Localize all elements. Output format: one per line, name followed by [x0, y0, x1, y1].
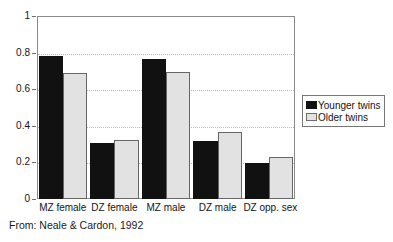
y-tick-mark [32, 126, 36, 127]
legend-label-older-twins: Older twins [318, 112, 368, 123]
source-caption: From: Neale & Cardon, 1992 [9, 219, 143, 232]
bar-younger-twins [90, 143, 114, 199]
bar-younger-twins [39, 56, 63, 199]
x-axis: MZ femaleDZ femaleMZ maleDZ maleDZ opp. … [37, 200, 295, 218]
y-tick-label: 1 [24, 11, 30, 21]
bar-older-twins [166, 72, 190, 199]
y-tick-mark [32, 53, 36, 54]
legend-label-younger-twins: Younger twins [318, 100, 380, 111]
x-tick-label: DZ female [89, 202, 141, 214]
y-tick-label: 0 [24, 194, 30, 204]
y-tick-mark [32, 162, 36, 163]
y-tick-label: 0.2 [16, 157, 30, 167]
y-tick-label: 0.8 [16, 48, 30, 58]
x-tick-label: DZ opp. sex [243, 202, 295, 214]
twin-correlation-bar-chart: 00.20.40.60.81 MZ femaleDZ femaleMZ male… [0, 0, 393, 242]
bar-group [245, 16, 294, 199]
bar-group [193, 16, 242, 199]
legend-item-older-twins: Older twins [306, 111, 380, 123]
bar-younger-twins [193, 141, 217, 199]
bar-older-twins [114, 140, 138, 199]
y-axis: 00.20.40.60.81 [0, 0, 37, 242]
x-tick-label: DZ male [192, 202, 244, 214]
bar-group [142, 16, 191, 199]
x-tick-label: MZ male [140, 202, 192, 214]
y-tick-mark [32, 199, 36, 200]
y-tick-label: 0.4 [16, 121, 30, 131]
bar-older-twins [269, 157, 293, 199]
y-tick-mark [32, 89, 36, 90]
bar-group [39, 16, 88, 199]
bar-younger-twins [245, 163, 269, 199]
older-twins-swatch-icon [306, 113, 317, 121]
y-tick-mark [32, 16, 36, 17]
younger-twins-swatch-icon [306, 101, 317, 109]
x-tick-label: MZ female [37, 202, 89, 214]
legend-item-younger-twins: Younger twins [306, 99, 380, 111]
bar-older-twins [63, 73, 87, 199]
y-tick-label: 0.6 [16, 84, 30, 94]
bar-younger-twins [142, 59, 166, 199]
bar-series-container [37, 16, 295, 199]
bar-older-twins [218, 132, 242, 199]
bar-group [90, 16, 139, 199]
chart-legend: Younger twins Older twins [302, 95, 385, 127]
